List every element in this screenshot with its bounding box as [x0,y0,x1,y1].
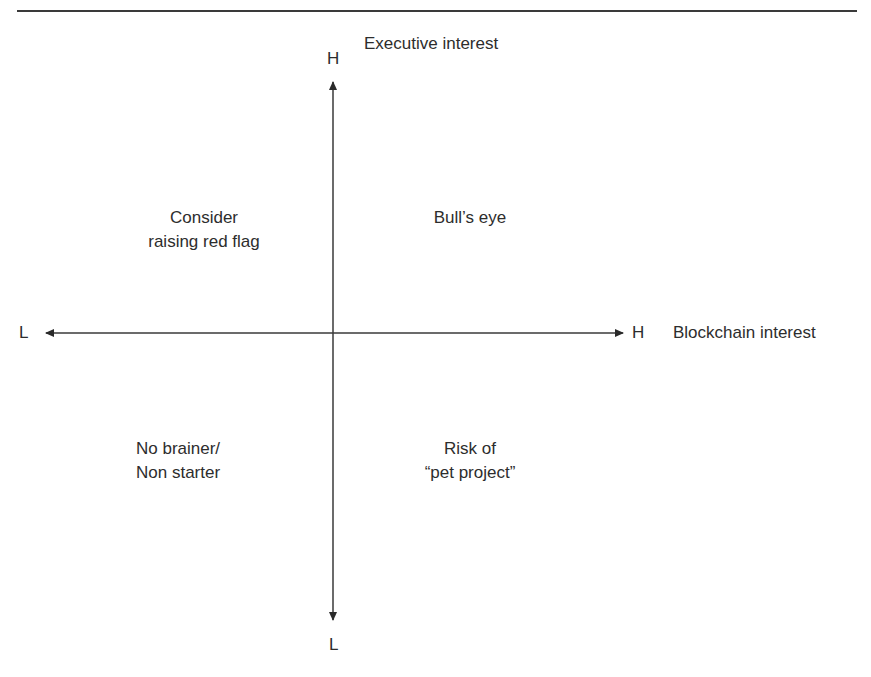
quadrant-bottom-left-line1: No brainer/ [136,438,276,460]
vertical-high-label: H [327,48,339,70]
quadrant-bottom-left: No brainer/ Non starter [136,438,276,484]
vertical-axis-name: Executive interest [364,33,498,55]
quadrant-bottom-right-line2: “pet project” [400,462,540,484]
horizontal-axis-name: Blockchain interest [673,322,816,344]
vertical-low-label: L [329,634,338,656]
quadrant-bottom-right: Risk of “pet project” [400,438,540,484]
quadrant-bottom-left-line2: Non starter [136,462,276,484]
quadrant-top-left: Consider raising red flag [130,207,278,253]
quadrant-top-right: Bull’s eye [400,207,540,229]
horizontal-low-label: L [19,322,28,344]
quadrant-top-left-line1: Consider [130,207,278,229]
horizontal-high-label: H [632,322,644,344]
quadrant-top-left-line2: raising red flag [130,231,278,253]
quadrant-top-right-line1: Bull’s eye [400,207,540,229]
quadrant-bottom-right-line1: Risk of [400,438,540,460]
